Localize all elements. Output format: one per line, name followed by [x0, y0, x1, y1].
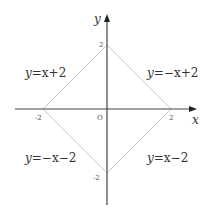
y-axis-arrow-icon [104, 14, 110, 22]
equation-label-upper-left: y=x+2 [24, 66, 66, 80]
coordinate-diagram: x y O -2 2 2 -2 y=x+2 y=−x+2 y=−x−2 y=x−… [0, 0, 210, 218]
y-tick-neg-2: -2 [93, 174, 100, 182]
x-axis-arrow-icon [189, 106, 197, 112]
x-tick-2: 2 [169, 114, 173, 122]
equation-label-lower-right: y=x−2 [146, 151, 188, 165]
x-axis-label: x [192, 113, 199, 127]
origin-label: O [97, 114, 103, 122]
x-tick-neg-2: -2 [35, 114, 42, 122]
y-tick-2: 2 [99, 41, 103, 49]
equation-label-upper-right: y=−x+2 [146, 66, 198, 80]
equation-label-lower-left: y=−x−2 [24, 151, 76, 165]
y-axis-label: y [93, 12, 101, 26]
